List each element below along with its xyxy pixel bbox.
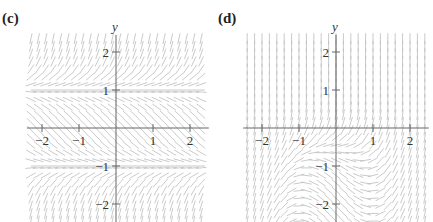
- y-axis-label: y: [330, 19, 338, 34]
- y-tick-label: −1: [95, 159, 109, 174]
- y-axis-label: y: [110, 19, 118, 34]
- y-tick-label: 1: [323, 83, 330, 98]
- y-tick-label: −2: [95, 197, 109, 212]
- x-tick-label: 1: [370, 133, 377, 148]
- x-tick-label: 2: [407, 133, 414, 148]
- x-tick-label: −1: [72, 133, 86, 148]
- x-tick-label: −2: [35, 133, 49, 148]
- x-tick-label: −2: [255, 133, 269, 148]
- x-tick-label: 1: [150, 133, 157, 148]
- x-tick-label: 2: [187, 133, 194, 148]
- slope-field-panel-d: (d) −2−11221−1−2ty: [216, 0, 433, 222]
- x-tick-label: −1: [292, 133, 306, 148]
- y-tick-label: −1: [315, 159, 329, 174]
- slope-field-panel-c: (c) −2−11221−1−2ty: [0, 0, 216, 222]
- y-tick-label: 2: [323, 45, 330, 60]
- slope-field-plot-c: −2−11221−1−2ty: [0, 0, 216, 222]
- slope-field-plot-d: −2−11221−1−2ty: [216, 0, 433, 222]
- y-tick-label: 2: [103, 45, 110, 60]
- y-tick-label: 1: [103, 83, 110, 98]
- y-tick-label: −2: [315, 197, 329, 212]
